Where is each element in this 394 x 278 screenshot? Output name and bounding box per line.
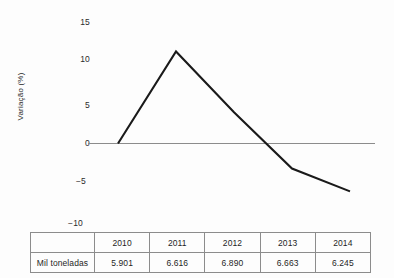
plot-area: Variação (%) 15 10 5 0 −5 −10: [0, 0, 394, 232]
chart-svg: [0, 0, 394, 232]
table-row-label: Mil toneladas: [31, 253, 95, 273]
table-column-header: 2013: [260, 233, 315, 253]
table-column-header: 2012: [205, 233, 260, 253]
table-row: Mil toneladas 5.901 6.616 6.890 6.663 6.…: [31, 253, 371, 273]
table-column-header: 2010: [95, 233, 150, 253]
table-column-header: 2014: [315, 233, 370, 253]
table-header-row: 2010 2011 2012 2013 2014: [31, 233, 371, 253]
table-cell: 6.663: [260, 253, 315, 273]
table-cell: 6.616: [150, 253, 205, 273]
chart-figure: Variação (%) 15 10 5 0 −5 −10 2010 2011 …: [0, 0, 394, 278]
data-series-line: [118, 52, 350, 192]
table-cell: 5.901: [95, 253, 150, 273]
table-cell: 6.245: [315, 253, 370, 273]
data-table: 2010 2011 2012 2013 2014 Mil toneladas 5…: [30, 232, 371, 273]
table-cell: 6.890: [205, 253, 260, 273]
table-corner-cell: [31, 233, 95, 253]
table-column-header: 2011: [150, 233, 205, 253]
